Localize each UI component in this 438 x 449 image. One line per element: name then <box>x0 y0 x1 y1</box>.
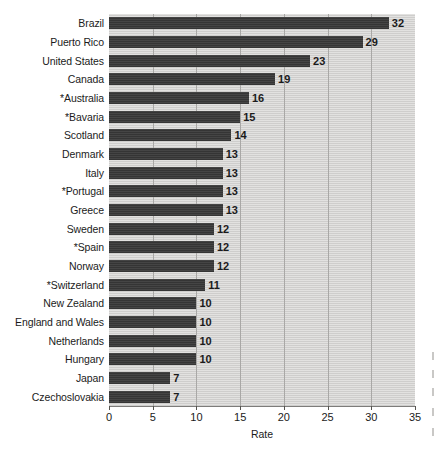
x-tick-mark <box>284 406 285 410</box>
bar <box>109 297 196 309</box>
edge-mark <box>432 352 434 360</box>
category-label: Czechoslovakia <box>0 391 104 403</box>
bar-value-label: 13 <box>226 185 238 197</box>
x-tick-label: 5 <box>138 411 168 424</box>
category-label: Brazil <box>0 17 104 29</box>
bar <box>109 167 223 179</box>
bar-value-label: 10 <box>199 353 211 365</box>
bar <box>109 111 240 123</box>
bar-value-label: 10 <box>199 316 211 328</box>
category-label: England and Wales <box>0 316 104 328</box>
category-label: Japan <box>0 372 104 384</box>
page-edge-artifacts <box>426 352 436 448</box>
category-label: *Switzerland <box>0 279 104 291</box>
bar-value-label: 15 <box>243 111 255 123</box>
bar-value-label: 7 <box>173 372 179 384</box>
category-label: Italy <box>0 167 104 179</box>
x-tick-label: 15 <box>225 411 255 424</box>
bar <box>109 204 223 216</box>
x-tick-label: 0 <box>94 411 124 424</box>
x-tick-label: 30 <box>356 411 386 424</box>
category-label: *Bavaria <box>0 111 104 123</box>
category-label: Greece <box>0 204 104 216</box>
bar <box>109 353 196 365</box>
x-tick-label: 10 <box>181 411 211 424</box>
category-label: Denmark <box>0 148 104 160</box>
edge-mark <box>432 388 434 396</box>
bar <box>109 92 249 104</box>
category-label: Netherlands <box>0 335 104 347</box>
gridline <box>328 14 329 406</box>
x-tick-mark <box>109 406 110 410</box>
bar <box>109 279 205 291</box>
category-label: *Australia <box>0 92 104 104</box>
bar <box>109 260 214 272</box>
bar-value-label: 12 <box>217 260 229 272</box>
category-label: Hungary <box>0 353 104 365</box>
bar <box>109 391 170 403</box>
category-label: *Spain <box>0 241 104 253</box>
edge-mark <box>432 370 434 378</box>
category-label: Canada <box>0 73 104 85</box>
bar <box>109 335 196 347</box>
bar <box>109 241 214 253</box>
category-label: United States <box>0 55 104 67</box>
x-axis-title: Rate <box>109 428 415 440</box>
x-tick-mark <box>196 406 197 410</box>
bar <box>109 223 214 235</box>
bar-value-label: 11 <box>208 279 220 291</box>
bar <box>109 73 275 85</box>
x-tick-label: 20 <box>269 411 299 424</box>
bar-value-label: 23 <box>313 55 325 67</box>
bar-value-label: 12 <box>217 223 229 235</box>
x-tick-mark <box>415 406 416 410</box>
category-axis: BrazilPuerto RicoUnited StatesCanada*Aus… <box>0 14 104 406</box>
x-tick-mark <box>153 406 154 410</box>
bar-chart: BrazilPuerto RicoUnited StatesCanada*Aus… <box>0 0 438 449</box>
gridline <box>371 14 372 406</box>
bar-value-label: 13 <box>226 167 238 179</box>
bar-value-label: 12 <box>217 241 229 253</box>
bar-value-label: 10 <box>199 297 211 309</box>
bar-value-label: 10 <box>199 335 211 347</box>
bar-value-label: 19 <box>278 73 290 85</box>
x-tick-label: 35 <box>400 411 430 424</box>
bar <box>109 185 223 197</box>
bar <box>109 316 196 328</box>
category-label: Norway <box>0 260 104 272</box>
bar-value-label: 13 <box>226 148 238 160</box>
bar <box>109 129 231 141</box>
category-label: Sweden <box>0 223 104 235</box>
bar-value-label: 32 <box>392 17 404 29</box>
bar <box>109 36 363 48</box>
x-tick-mark <box>240 406 241 410</box>
category-label: *Portugal <box>0 185 104 197</box>
bar-value-label: 13 <box>226 204 238 216</box>
bar <box>109 148 223 160</box>
bar-value-label: 16 <box>252 92 264 104</box>
bar-value-label: 29 <box>366 36 378 48</box>
edge-mark <box>432 408 434 416</box>
category-label: Scotland <box>0 129 104 141</box>
category-label: Puerto Rico <box>0 36 104 48</box>
x-tick-mark <box>328 406 329 410</box>
edge-mark <box>432 428 434 436</box>
bar <box>109 17 389 29</box>
category-label: New Zealand <box>0 297 104 309</box>
x-tick-mark <box>371 406 372 410</box>
bar <box>109 372 170 384</box>
plot-area: 3229231916151413131313121212111010101077 <box>109 14 415 406</box>
x-axis-line <box>109 406 415 407</box>
bar <box>109 55 310 67</box>
bar-value-label: 14 <box>234 129 246 141</box>
x-tick-label: 25 <box>313 411 343 424</box>
bar-value-label: 7 <box>173 391 179 403</box>
